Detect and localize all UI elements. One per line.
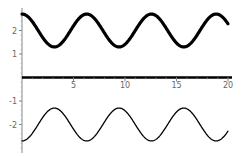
y-tick-label: 1	[12, 50, 17, 59]
x-tick-label: 20	[223, 81, 233, 90]
bottom-curve-line	[22, 108, 228, 141]
sinusoid-chart: 21-1-25101520	[0, 0, 247, 156]
x-tick-label: 15	[171, 81, 181, 90]
y-tick-label: -2	[9, 121, 17, 130]
x-tick-label: 10	[120, 81, 130, 90]
x-tick-label: 5	[71, 81, 76, 90]
top-curve-line	[22, 14, 228, 47]
y-tick-label: 2	[12, 27, 17, 36]
y-tick-label: -1	[9, 97, 17, 106]
